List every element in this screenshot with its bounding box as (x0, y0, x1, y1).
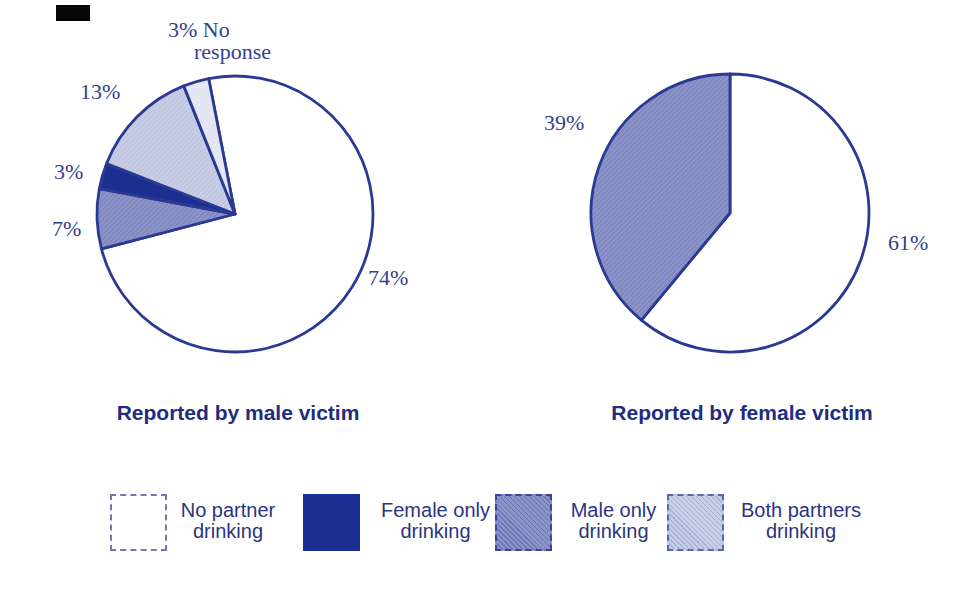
legend-line: Female only (368, 500, 503, 521)
pct-label-female-only-male-pie: 3% (54, 159, 83, 185)
legend-label-male-only-drinking: Male only drinking (556, 500, 671, 542)
legend-line: No partner (168, 500, 288, 521)
pct-label-no-partner-male-pie: 74% (368, 265, 408, 291)
legend-line: Male only (556, 500, 671, 521)
title-male-victim: Reported by male victim (88, 401, 388, 425)
pct-label-male-only-male-pie: 7% (52, 216, 81, 242)
pct-label-no-response-male-pie: 3% No response (168, 19, 271, 63)
legend-swatch-female-only-drinking (303, 494, 360, 551)
legend-label-both-partners-drinking: Both partners drinking (726, 500, 876, 542)
legend-swatch-male-only-drinking (495, 494, 552, 551)
legend-line: Both partners (726, 500, 876, 521)
pct-label-male-only-female-pie: 39% (544, 110, 584, 136)
no-response-line-1: 3% No (168, 19, 271, 41)
legend-swatch-no-partner-drinking (110, 494, 167, 551)
no-response-line-2: response (194, 41, 271, 63)
legend-line: drinking (556, 521, 671, 542)
legend-line: drinking (726, 521, 876, 542)
title-female-victim: Reported by female victim (592, 401, 892, 425)
pct-label-both-partners-male-pie: 13% (80, 79, 120, 105)
pie-male-victim (97, 76, 373, 352)
legend-line: drinking (168, 521, 288, 542)
legend-swatch-both-partners-drinking (667, 494, 724, 551)
legend-line: drinking (368, 521, 503, 542)
pct-label-no-partner-female-pie: 61% (888, 230, 928, 256)
legend-label-no-partner-drinking: No partner drinking (168, 500, 288, 542)
pie-female-victim (591, 74, 869, 352)
legend-label-female-only-drinking: Female only drinking (368, 500, 503, 542)
figure-two-pie-charts: 13% 3% 7% 74% 3% No response 39% 61% Rep… (0, 0, 966, 596)
